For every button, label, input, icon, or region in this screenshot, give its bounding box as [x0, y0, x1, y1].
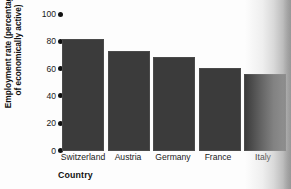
y-tick-label-0: 0	[26, 145, 56, 157]
bar-austria	[108, 51, 150, 151]
x-tick-label-italy: Italy	[240, 152, 286, 162]
x-tick-label-france: France	[194, 152, 242, 162]
bar-chart-figure: Employment rate (percentage of economica…	[0, 0, 291, 189]
x-tick-label-germany: Germany	[148, 152, 198, 162]
bar-germany	[153, 57, 195, 151]
y-axis-title-text: Employment rate (percentage of economica…	[4, 0, 23, 108]
bar-switzerland	[62, 39, 104, 151]
y-tick-label-60: 60	[26, 63, 56, 75]
y-tick-label-100: 100	[26, 8, 56, 20]
y-tick-label-40: 40	[26, 90, 56, 102]
y-tick-label-80: 80	[26, 35, 56, 47]
x-tick-label-austria: Austria	[104, 152, 152, 162]
bar-france	[199, 68, 241, 151]
bar-italy	[244, 74, 286, 150]
plot-area	[62, 14, 286, 151]
x-tick-label-switzerland: Switzerland	[55, 152, 111, 162]
y-tick-label-20: 20	[26, 117, 56, 129]
x-axis-title: Country	[58, 170, 93, 180]
y-axis-title: Employment rate (percentage of economica…	[1, 0, 27, 110]
